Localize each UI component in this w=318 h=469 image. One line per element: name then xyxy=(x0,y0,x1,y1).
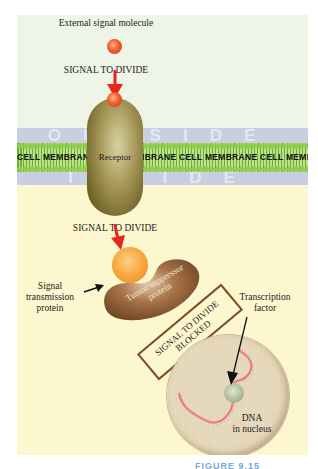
bound-signal-molecule xyxy=(107,92,122,107)
figure-caption: FIGURE 9.15 xyxy=(195,461,260,469)
external-signal-molecule-label: External signal molecule xyxy=(17,18,195,29)
inside-watermark: INSIDE xyxy=(17,171,308,185)
signal-transmission-protein xyxy=(112,247,148,283)
cell-membrane-label: CELL MEMBRANE CELL MEMBRANE CELL MEMBRAN… xyxy=(17,152,308,162)
black-arrow-icon-transcription xyxy=(223,315,253,387)
transcription-factor-label: Transcription factor xyxy=(227,292,303,314)
black-arrow-icon xyxy=(83,283,105,295)
receptor-label: Receptor xyxy=(87,152,143,162)
external-signal-molecule xyxy=(107,39,122,54)
dna-in-nucleus-label: DNA in nucleus xyxy=(222,413,282,435)
diagram-panel: OUTSIDE INSIDE CELL MEMBRANE CELL MEMBRA… xyxy=(17,15,308,455)
signal-transmission-protein-label: Signal transmission protein xyxy=(17,281,83,314)
outside-watermark: OUTSIDE xyxy=(17,129,308,143)
